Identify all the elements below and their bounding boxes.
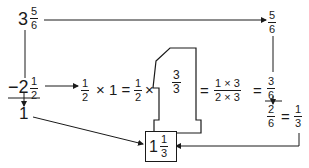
- subtract-fraction: 1 2: [30, 76, 38, 101]
- top-right-fraction: 5 6: [268, 10, 276, 35]
- equals-2: =: [253, 83, 262, 98]
- half-fraction: 1 2: [81, 78, 89, 103]
- arrow-diagonal: [33, 117, 143, 144]
- start-fraction: 5 6: [30, 6, 38, 31]
- simplified-fraction: 1 3: [294, 104, 302, 129]
- diff-numerator: 2: [267, 104, 275, 117]
- times-sign: ×: [145, 82, 154, 97]
- half2-denominator: 2: [135, 91, 141, 103]
- three-sixths-fraction: 3 6: [267, 76, 275, 101]
- half-denominator: 2: [82, 91, 88, 103]
- three-sixths-numerator: 3: [267, 76, 275, 89]
- subtract-numerator: 1: [30, 76, 38, 89]
- answer-fraction: 1 3: [160, 134, 168, 159]
- result-whole: 1: [19, 106, 28, 121]
- diff-denominator: 6: [268, 117, 274, 129]
- minus-sign: −: [8, 77, 19, 97]
- arrow-return: [176, 133, 299, 146]
- equals-3: =: [281, 109, 290, 124]
- diff-fraction: 2 6: [267, 104, 275, 129]
- equals-1: =: [200, 83, 209, 98]
- half-fraction-2: 1 2: [134, 78, 142, 103]
- start-denominator: 6: [31, 19, 37, 31]
- subtract-whole: −2: [8, 80, 29, 95]
- subtract-whole-number: 2: [19, 77, 29, 97]
- subtract-denominator: 2: [31, 89, 37, 101]
- three-thirds-fraction: 3 3: [172, 70, 181, 95]
- start-numerator: 5: [30, 6, 38, 19]
- answer-denominator: 3: [161, 147, 167, 159]
- product-fraction: 1 × 3 2 × 3: [214, 78, 241, 103]
- half-numerator: 1: [81, 78, 89, 91]
- answer-whole: 1: [149, 139, 158, 154]
- three-sixths-denominator: 6: [268, 89, 274, 101]
- half2-numerator: 1: [134, 78, 142, 91]
- top-right-denominator: 6: [269, 23, 275, 35]
- answer-box: 1 1 3: [145, 131, 177, 162]
- answer-numerator: 1: [160, 134, 168, 147]
- simplified-denominator: 3: [295, 117, 301, 129]
- start-whole: 3: [18, 12, 28, 27]
- top-right-numerator: 5: [268, 10, 276, 23]
- product-denominator: 2 × 3: [215, 91, 240, 103]
- three-thirds-denominator: 3: [173, 83, 180, 95]
- product-numerator: 1 × 3: [214, 78, 241, 91]
- times-one-equals: × 1 =: [96, 82, 130, 97]
- simplified-numerator: 1: [294, 104, 302, 117]
